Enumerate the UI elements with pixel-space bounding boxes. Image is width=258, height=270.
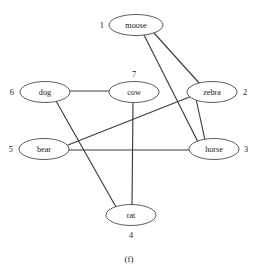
graph-node-zebra[interactable]: zebra2	[187, 82, 247, 103]
graph-edge-zebra-bear	[68, 96, 192, 145]
graph-edge-moose-zebra	[154, 33, 200, 84]
graph-canvas: moose1zebra2horse3rat4bear5dog6cow7	[0, 0, 258, 270]
graph-edge-cow-rat	[132, 103, 133, 205]
node-index-bear: 5	[9, 145, 13, 154]
graph-edge-zebra-horse	[196, 99, 205, 140]
node-index-zebra: 2	[243, 88, 247, 97]
node-index-moose: 1	[100, 21, 104, 30]
node-label-moose: moose	[125, 21, 147, 30]
nodes-layer: moose1zebra2horse3rat4bear5dog6cow7	[9, 15, 248, 240]
graph-node-cow[interactable]: cow7	[109, 70, 159, 103]
node-index-cow: 7	[132, 70, 136, 79]
graph-node-moose[interactable]: moose1	[100, 15, 163, 36]
graph-node-horse[interactable]: horse3	[189, 139, 248, 160]
node-label-zebra: zebra	[203, 88, 221, 97]
graph-node-rat[interactable]: rat4	[106, 205, 156, 240]
node-label-bear: bear	[37, 145, 51, 154]
node-label-cow: cow	[127, 88, 141, 97]
edges-layer	[56, 33, 205, 207]
node-label-horse: horse	[205, 145, 223, 154]
node-index-dog: 6	[10, 88, 14, 97]
node-label-rat: rat	[127, 211, 136, 220]
graph-node-dog[interactable]: dog6	[10, 82, 70, 103]
graph-figure: moose1zebra2horse3rat4bear5dog6cow7 (f)	[0, 0, 258, 270]
figure-caption: (f)	[0, 254, 258, 264]
node-label-dog: dog	[39, 88, 51, 97]
node-index-rat: 4	[129, 231, 134, 240]
node-index-horse: 3	[244, 145, 248, 154]
graph-node-bear[interactable]: bear5	[9, 139, 69, 160]
